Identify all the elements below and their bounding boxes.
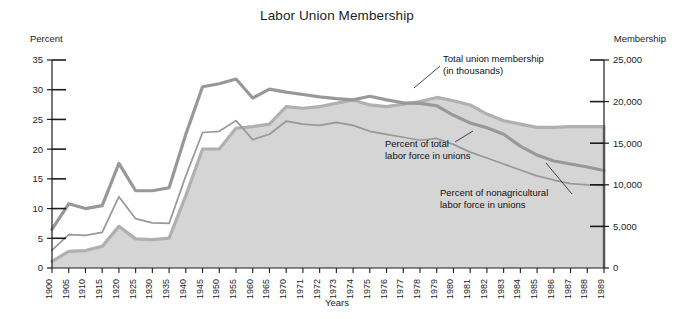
y-tick-label: 10	[32, 203, 43, 214]
chart-container: Labor Union Membership Percent Membershi…	[0, 0, 674, 319]
annot-total-membership: Total union membership(in thousands)	[414, 53, 544, 88]
chart-plot-area: 05101520253035 05,00010,00015,00020,0002…	[0, 0, 674, 319]
annot-percent-nonag-line: labor force in unions	[440, 199, 526, 210]
y2-tick-label: 10,000	[613, 179, 642, 190]
y-tick-label: 0	[38, 262, 43, 273]
annot-percent-total-line: labor force in unions	[385, 150, 471, 161]
y2-tick-label: 15,000	[613, 138, 642, 149]
annot-total-membership-line: (in thousands)	[443, 65, 503, 76]
y2-tick-label: 0	[613, 262, 618, 273]
y-tick-label: 25	[32, 114, 43, 125]
annot-percent-nonag-line: Percent of nonagricultural	[440, 187, 548, 198]
right-axis-caption: Membership	[614, 33, 666, 44]
x-axis: 1900190519101915192019251930193519401945…	[44, 268, 606, 299]
y2-tick-label: 20,000	[613, 96, 642, 107]
y-tick-label: 20	[32, 144, 43, 155]
y2-tick-label: 5,000	[613, 221, 637, 232]
left-axis-caption: Percent	[30, 33, 63, 44]
annot-percent-total-line: Percent of total	[385, 138, 449, 149]
y2-tick-label: 25,000	[613, 54, 642, 65]
x-axis-caption: Years	[0, 297, 674, 308]
y-tick-label: 35	[32, 54, 43, 65]
left-axis: 05101520253035	[32, 54, 66, 273]
y-tick-label: 30	[32, 84, 43, 95]
y-tick-label: 15	[32, 173, 43, 184]
y-tick-label: 5	[38, 233, 43, 244]
annot-total-membership-line: Total union membership	[443, 53, 544, 64]
chart-title: Labor Union Membership	[0, 8, 674, 23]
